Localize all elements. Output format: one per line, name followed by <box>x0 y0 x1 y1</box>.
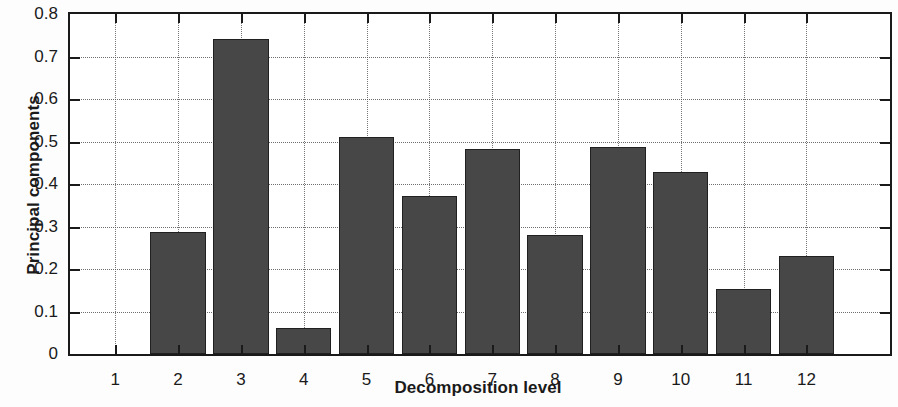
y-axis-tick <box>880 99 890 101</box>
bar-chart-figure: Principal components 00.10.20.30.40.50.6… <box>0 0 898 407</box>
x-axis-tick <box>429 14 431 23</box>
bar <box>590 147 645 354</box>
y-axis-tick <box>880 184 890 186</box>
y-axis-tick-label: 0.7 <box>34 47 58 67</box>
y-axis-tick-label: 0.3 <box>34 217 58 237</box>
plot-area: 00.10.20.30.40.50.60.70.8123456789101112 <box>68 12 892 356</box>
x-axis-tick <box>618 345 620 354</box>
x-axis-tick <box>618 14 620 23</box>
x-axis-tick <box>304 14 306 23</box>
bar <box>653 172 708 354</box>
bar <box>465 149 520 354</box>
x-axis-tick <box>429 345 431 354</box>
x-axis-tick <box>555 14 557 23</box>
x-axis-tick <box>555 345 557 354</box>
y-axis-tick <box>880 269 890 271</box>
y-axis-tick <box>880 312 890 314</box>
x-axis-tick <box>367 14 369 23</box>
y-axis-tick-label: 0.6 <box>34 89 58 109</box>
bar <box>213 39 268 354</box>
x-axis-tick <box>304 345 306 354</box>
y-axis-tick <box>880 227 890 229</box>
bar <box>402 196 457 354</box>
bar <box>339 137 394 354</box>
x-axis-tick <box>178 14 180 23</box>
x-axis-tick <box>178 345 180 354</box>
y-axis-tick-label: 0.4 <box>34 174 58 194</box>
y-axis-tick <box>70 269 80 271</box>
y-axis-tick <box>880 142 890 144</box>
x-axis-tick <box>115 345 117 354</box>
y-gridline <box>70 99 890 100</box>
bar <box>779 256 834 354</box>
y-axis-tick <box>880 57 890 59</box>
y-gridline <box>70 142 890 143</box>
x-gridline <box>115 14 116 354</box>
x-axis-tick <box>681 345 683 354</box>
x-axis-label: Decomposition level <box>68 378 888 398</box>
x-axis-tick <box>744 14 746 23</box>
bar <box>527 235 582 354</box>
x-axis-tick <box>681 14 683 23</box>
y-axis-tick <box>70 227 80 229</box>
x-gridline <box>304 14 305 354</box>
y-gridline <box>70 57 890 58</box>
y-axis-tick <box>70 142 80 144</box>
x-axis-tick <box>806 345 808 354</box>
y-axis-tick <box>70 312 80 314</box>
x-axis-tick <box>492 345 494 354</box>
y-axis-tick <box>70 184 80 186</box>
y-axis-tick-label: 0.2 <box>34 259 58 279</box>
x-axis-tick <box>806 14 808 23</box>
y-axis-tick-label: 0.1 <box>34 302 58 322</box>
x-axis-tick <box>241 345 243 354</box>
x-axis-tick <box>492 14 494 23</box>
bar <box>150 232 205 354</box>
y-axis-tick-label: 0 <box>49 344 58 364</box>
x-axis-tick <box>744 345 746 354</box>
x-axis-tick <box>241 14 243 23</box>
y-axis-tick-label: 0.8 <box>34 4 58 24</box>
y-axis-tick <box>70 99 80 101</box>
x-axis-tick <box>367 345 369 354</box>
x-axis-tick <box>115 14 117 23</box>
y-axis-tick <box>70 57 80 59</box>
y-axis-tick-label: 0.5 <box>34 132 58 152</box>
